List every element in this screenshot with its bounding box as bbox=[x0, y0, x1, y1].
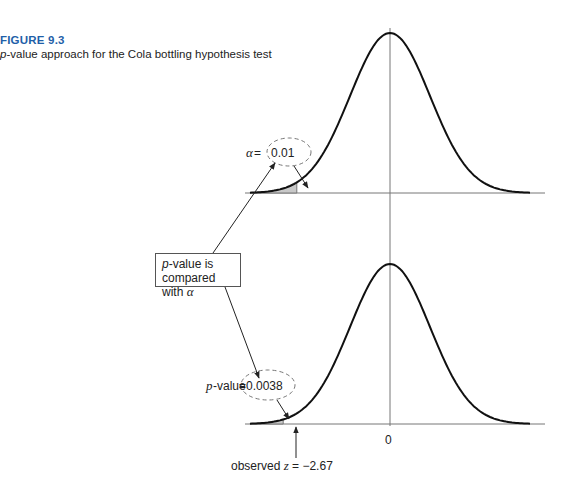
diagram-canvas: α = 0.01 p -value = 0.0038 0 observed z … bbox=[0, 0, 567, 486]
pvalue-arrow bbox=[277, 400, 289, 419]
observed-label: observed z = −2.67 bbox=[231, 458, 333, 473]
pvalue-value: 0.0038 bbox=[246, 379, 283, 393]
pvalue-p: p bbox=[205, 378, 213, 393]
alpha-value: 0.01 bbox=[271, 146, 295, 160]
compare-arrow-top bbox=[213, 163, 275, 253]
alpha-symbol: α bbox=[246, 145, 254, 160]
comparison-line2: compared with α bbox=[162, 271, 240, 299]
bottom-panel: p -value = 0.0038 0 observed z = −2.67 bbox=[205, 264, 545, 473]
axis-zero-label: 0 bbox=[385, 433, 392, 447]
comparison-box: p-value is compared with α bbox=[155, 253, 241, 287]
pvalue-eq: = bbox=[239, 379, 246, 393]
alpha-symbol-inline: α bbox=[187, 284, 194, 299]
compare-arrow-bottom bbox=[225, 287, 259, 378]
top-panel: α = 0.01 bbox=[245, 33, 545, 193]
comparison-line1: p-value is bbox=[162, 257, 240, 271]
alpha-eq: = bbox=[254, 146, 261, 160]
